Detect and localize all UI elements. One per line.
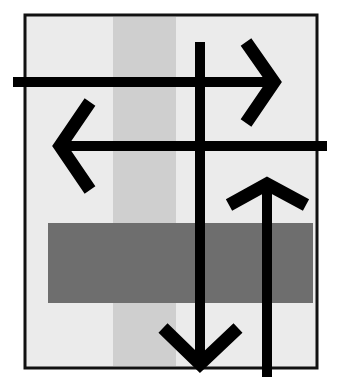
light-gray-column: [113, 17, 176, 366]
dark-gray-band: [48, 223, 313, 303]
arrow-diagram: [0, 0, 338, 389]
